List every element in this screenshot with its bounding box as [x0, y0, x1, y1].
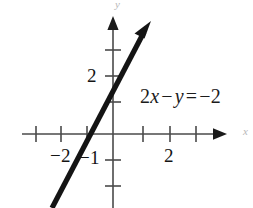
equation-var-x: x	[150, 85, 159, 107]
equation-coef-x: 2	[140, 85, 150, 107]
equation-minus-sign: −	[159, 85, 174, 107]
equation-annotation: 2x−y=−2	[140, 86, 221, 106]
x-axis-arrowhead	[213, 128, 227, 140]
line-arrowhead	[135, 21, 152, 39]
equation-rhs: −2	[199, 85, 221, 107]
graph-figure: y x 2 −2 −1 2 2x−y=−2	[0, 0, 253, 208]
y-axis-label: y	[115, 0, 120, 10]
x-axis	[22, 126, 227, 142]
y-axis-arrowhead	[107, 16, 118, 30]
equation-var-y: y	[175, 85, 184, 107]
x-tick-label-2: 2	[164, 146, 174, 165]
x-axis-label: x	[243, 126, 248, 137]
equation-equals-sign: =	[184, 85, 199, 107]
x-tick-label-minus-2: −2	[50, 146, 71, 165]
y-axis	[105, 16, 121, 208]
x-tick-label-minus-1: −1	[79, 148, 100, 167]
y-tick-label-2: 2	[87, 66, 97, 85]
line-2x-minus-y-equals-minus-2	[52, 21, 151, 208]
